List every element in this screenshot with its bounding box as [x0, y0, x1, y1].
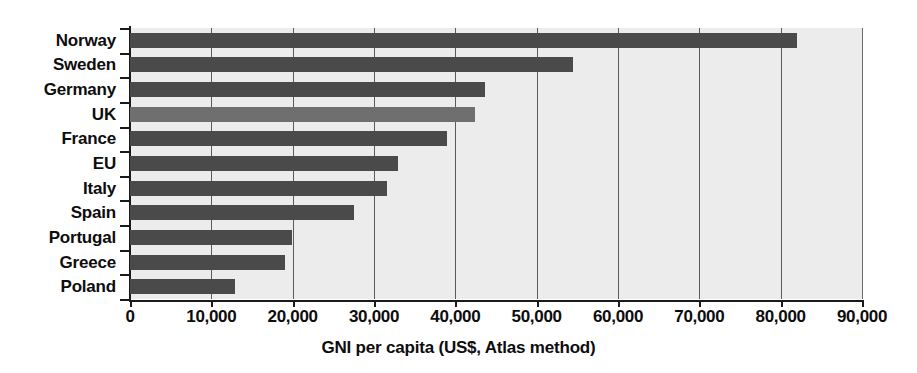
bar-row	[130, 250, 862, 275]
x-tick-40000	[455, 300, 457, 307]
category-label-spain: Spain	[0, 200, 122, 225]
bar-sweden	[130, 57, 573, 72]
plot-area	[130, 28, 862, 299]
category-label-eu: EU	[0, 151, 122, 176]
x-tick-label-0: 0	[125, 307, 134, 327]
cropped-title-sliver	[150, 0, 750, 2]
bar-greece	[130, 255, 285, 270]
bar-eu	[130, 156, 398, 171]
x-tick-70000	[699, 300, 701, 307]
x-tick-30000	[374, 300, 376, 307]
x-tick-label-20000: 20,000	[268, 307, 318, 327]
bar-row	[130, 77, 862, 102]
category-label-sweden: Sweden	[0, 53, 122, 78]
x-tick-label-90000: 90,000	[837, 307, 887, 327]
bar-row	[130, 176, 862, 201]
bar-chart: Norway Sweden Germany UK France EU Italy…	[0, 0, 917, 373]
bar-italy	[130, 181, 387, 196]
x-tick-label-60000: 60,000	[593, 307, 643, 327]
category-label-uk: UK	[0, 102, 122, 127]
x-tick-0	[130, 300, 132, 307]
bar-row	[130, 28, 862, 53]
x-tick-20000	[293, 300, 295, 307]
bar-row	[130, 102, 862, 127]
category-label-italy: Italy	[0, 176, 122, 201]
bar-germany	[130, 82, 485, 97]
x-tick-80000	[781, 300, 783, 307]
bar-norway	[130, 33, 797, 48]
category-label-norway: Norway	[0, 28, 122, 53]
bar-france	[130, 131, 447, 146]
x-tick-label-40000: 40,000	[430, 307, 480, 327]
x-tick-label-10000: 10,000	[186, 307, 236, 327]
bar-portugal	[130, 230, 292, 245]
x-tick-label-70000: 70,000	[674, 307, 724, 327]
bar-row	[130, 225, 862, 250]
category-label-portugal: Portugal	[0, 225, 122, 250]
category-axis-labels: Norway Sweden Germany UK France EU Italy…	[0, 28, 122, 299]
x-axis-title: GNI per capita (US$, Atlas method)	[0, 338, 917, 358]
bar-spain	[130, 205, 354, 220]
x-tick-10000	[211, 300, 213, 307]
gridline-90000	[862, 28, 863, 299]
bar-row	[130, 53, 862, 78]
x-tick-label-80000: 80,000	[756, 307, 806, 327]
category-label-france: France	[0, 127, 122, 152]
category-label-germany: Germany	[0, 77, 122, 102]
bar-series	[130, 28, 862, 299]
category-label-greece: Greece	[0, 250, 122, 275]
bar-row	[130, 200, 862, 225]
category-label-poland: Poland	[0, 274, 122, 299]
bar-row	[130, 151, 862, 176]
bar-row	[130, 274, 862, 299]
x-tick-50000	[537, 300, 539, 307]
bar-uk	[130, 107, 475, 122]
x-tick-label-30000: 30,000	[349, 307, 399, 327]
bar-row	[130, 127, 862, 152]
x-tick-60000	[618, 300, 620, 307]
bar-poland	[130, 279, 235, 294]
value-axis-tick-labels: 010,00020,00030,00040,00050,00060,00070,…	[0, 307, 917, 331]
x-tick-90000	[862, 300, 864, 307]
x-tick-label-50000: 50,000	[512, 307, 562, 327]
